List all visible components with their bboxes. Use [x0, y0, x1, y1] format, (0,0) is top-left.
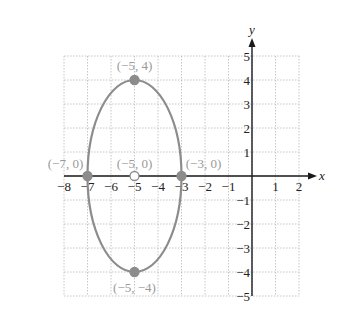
- x-tick-label: −2: [198, 179, 212, 194]
- x-axis-label: x: [318, 168, 325, 183]
- point-label: (−5, 4): [117, 58, 153, 73]
- data-point: [177, 172, 186, 181]
- x-tick-label: 1: [272, 179, 279, 194]
- y-tick-label: −1: [236, 193, 250, 208]
- x-tick-label: −6: [104, 179, 118, 194]
- y-tick-label: −2: [236, 217, 250, 232]
- y-tick-label: 1: [244, 145, 251, 160]
- data-point: [83, 172, 92, 181]
- point-label: (−5, 0): [117, 156, 153, 171]
- y-axis-arrow-icon: [249, 38, 256, 47]
- x-tick-label: −5: [128, 179, 142, 194]
- data-point: [130, 172, 139, 181]
- x-axis-arrow-icon: [308, 173, 317, 180]
- x-tick-label: −4: [151, 179, 165, 194]
- ellipse-chart: xy −8−7−6−5−4−3−2−11254321−1−2−3−4−5 (−5…: [0, 0, 339, 315]
- x-tick-label: 2: [296, 179, 303, 194]
- y-tick-label: −4: [236, 265, 250, 280]
- x-tick-label: −1: [222, 179, 236, 194]
- point-label: (−5, −4): [113, 280, 156, 295]
- point-label: (−3, 0): [186, 156, 222, 171]
- y-axis-label: y: [247, 22, 255, 37]
- y-tick-label: 3: [244, 97, 251, 112]
- y-tick-label: −3: [236, 241, 250, 256]
- y-tick-label: 5: [244, 49, 251, 64]
- data-point: [130, 268, 139, 277]
- data-point: [130, 76, 139, 85]
- point-label: (−7, 0): [48, 156, 84, 171]
- x-tick-label: −8: [57, 179, 71, 194]
- y-tick-label: −5: [236, 289, 250, 304]
- y-tick-label: 4: [244, 73, 251, 88]
- y-tick-label: 2: [244, 121, 251, 136]
